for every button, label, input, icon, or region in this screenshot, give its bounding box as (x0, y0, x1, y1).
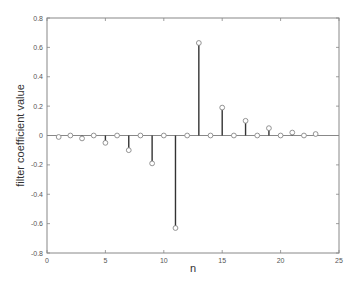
stem-marker (313, 132, 318, 137)
stem-marker (126, 148, 131, 153)
y-tick-label: -0.6 (31, 220, 43, 227)
stem-marker (243, 118, 248, 123)
x-tick-label: 5 (103, 257, 107, 264)
x-tick-label: 15 (218, 257, 226, 264)
stem-marker (173, 226, 178, 231)
stem-chart: 0510152025 0.80.60.40.20-0.2-0.4-0.6-0.8… (0, 0, 358, 285)
stem-marker (290, 130, 295, 135)
stem-marker (302, 133, 307, 138)
y-tick-label: 0.4 (33, 73, 43, 80)
x-tick-label: 20 (277, 257, 285, 264)
y-tick-label: -0.4 (31, 191, 43, 198)
y-tick-label: 0 (39, 132, 43, 139)
stem-marker (267, 126, 272, 131)
x-tick-label: 10 (160, 257, 168, 264)
y-tick-label: -0.2 (31, 161, 43, 168)
stem-marker (278, 133, 283, 138)
stem-marker (208, 133, 213, 138)
stem-marker (138, 133, 143, 138)
x-tick-label: 0 (45, 257, 49, 264)
stem-marker (103, 140, 108, 145)
y-tick-label: 0.8 (33, 15, 43, 22)
y-tick-label: -0.8 (31, 250, 43, 257)
y-tick-label: 0.6 (33, 44, 43, 51)
stem-marker (196, 41, 201, 46)
stem-marker (231, 133, 236, 138)
stem-marker (115, 133, 120, 138)
stem-marker (91, 133, 96, 138)
y-tick-labels: 0.80.60.40.20-0.2-0.4-0.6-0.8 (31, 15, 43, 257)
y-tick-label: 0.2 (33, 103, 43, 110)
y-axis-label: filter coefficient value (14, 84, 26, 187)
stem-marker (161, 133, 166, 138)
stem-marker (68, 133, 73, 138)
stem-marker (185, 133, 190, 138)
stem-marker (220, 105, 225, 110)
x-tick-label: 25 (335, 257, 343, 264)
x-axis-label: n (190, 262, 196, 274)
stem-marker (150, 161, 155, 166)
stem-marker (255, 133, 260, 138)
stem-markers (56, 41, 318, 231)
stem-marker (56, 135, 61, 140)
stem-marker (80, 136, 85, 141)
